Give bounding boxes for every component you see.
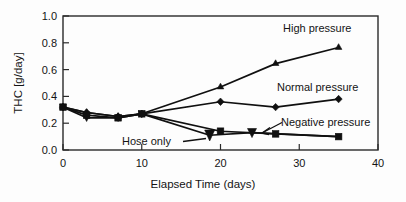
y-axis-title: THC [g/day] [12,52,24,113]
marker-point [138,111,145,118]
marker-point [272,131,279,138]
marker-point [272,103,279,110]
x-tick-label-2: 20 [214,157,226,169]
y-tick-label-4: 0.8 [42,37,57,49]
marker-point [217,128,224,135]
x-tick-label-4: 40 [372,157,384,169]
chart-canvas: 0.0 0.2 0.4 0.6 0.8 1.0 0 10 20 30 40 El… [0,0,406,202]
hose-only-leader [183,139,206,142]
marker-point [115,115,122,122]
annotation-negative-pressure: Negative pressure [281,116,370,128]
x-tick-label-0: 0 [60,157,66,169]
y-tick-label-3: 0.6 [42,64,57,76]
y-tick-label-0: 0.0 [42,144,57,156]
marker-point [335,95,342,103]
annotation-hose-only: Hose only [122,135,171,147]
y-tick-label-1: 0.2 [42,117,57,129]
annotation-normal-pressure: Normal pressure [277,81,358,93]
annotation-high-pressure: High pressure [283,22,351,34]
y-axis-ticks [63,16,69,150]
marker-point [335,133,342,140]
y-tick-label-2: 0.4 [42,90,57,102]
x-tick-label-1: 10 [136,157,148,169]
marker-point [83,112,90,119]
x-axis-title: Elapsed Time (days) [151,178,256,190]
series-line-normal-pressure [63,99,339,116]
chart-figure: 0.0 0.2 0.4 0.6 0.8 1.0 0 10 20 30 40 El… [0,0,406,202]
x-axis-ticks [63,144,378,150]
x-tick-label-3: 30 [293,157,305,169]
marker-point [335,44,342,50]
marker-point [217,98,224,106]
y-tick-label-5: 1.0 [42,10,57,22]
marker-point [60,104,67,111]
